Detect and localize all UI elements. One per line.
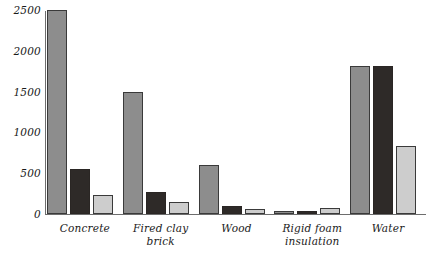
- bar-group: [199, 10, 275, 214]
- y-tick-label-500: 500: [20, 168, 41, 179]
- bar-group: [274, 10, 350, 214]
- x-category-label: Rigid foam insulation: [274, 220, 350, 265]
- x-axis-line: [45, 214, 426, 215]
- x-category-label: Water: [350, 220, 426, 265]
- bar: [199, 165, 219, 214]
- bar: [222, 206, 242, 214]
- bar-group: [47, 10, 123, 214]
- x-category-label: Concrete: [47, 220, 123, 265]
- y-axis-line: [45, 11, 46, 215]
- bar-chart: 05001000150020002500 ConcreteFired clay …: [0, 0, 436, 267]
- bar: [47, 10, 67, 214]
- bar: [146, 192, 166, 214]
- x-axis-category-labels: ConcreteFired clay brickWoodRigid foam i…: [47, 220, 426, 265]
- y-tick-label-1000: 1000: [13, 127, 41, 138]
- bar: [123, 92, 143, 214]
- bar: [373, 66, 393, 214]
- y-tick-label-2000: 2000: [13, 46, 41, 57]
- bar: [70, 169, 90, 214]
- x-category-label: Fired clay brick: [123, 220, 199, 265]
- bar-group: [123, 10, 199, 214]
- bar: [169, 202, 189, 214]
- bar: [396, 146, 416, 214]
- bar: [93, 195, 113, 214]
- y-axis-tick-labels: 05001000150020002500: [0, 0, 41, 267]
- bar: [350, 66, 370, 214]
- y-tick-label-1500: 1500: [13, 87, 41, 98]
- bar-groups: [47, 10, 426, 214]
- y-tick-label-0: 0: [34, 209, 41, 220]
- bar: [320, 208, 340, 214]
- bar: [245, 209, 265, 214]
- bar: [297, 211, 317, 214]
- bar: [274, 211, 294, 214]
- y-tick-label-2500: 2500: [13, 5, 41, 16]
- bar-group: [350, 10, 426, 214]
- x-category-label: Wood: [199, 220, 275, 265]
